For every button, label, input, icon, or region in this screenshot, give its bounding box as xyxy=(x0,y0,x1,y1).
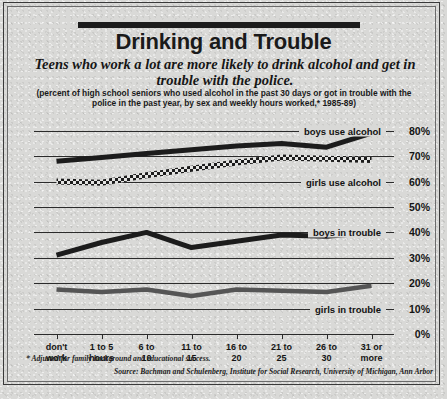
source-line: Source: Bachman and Schulenberg, Institu… xyxy=(95,367,433,376)
legend-label-boys-use-alcohol: boys use alcohol xyxy=(299,125,386,136)
y-axis-tick-label: 80% xyxy=(396,125,430,137)
y-axis-tick-label: 50% xyxy=(396,201,430,213)
legend-label-girls-in-trouble: girls in trouble xyxy=(310,303,386,314)
y-axis-tick-label: 30% xyxy=(396,252,430,264)
y-axis-tick-label: 60% xyxy=(396,176,430,188)
x-axis-tick xyxy=(237,334,238,339)
x-axis-baseline xyxy=(34,334,394,335)
y-axis-tick-label: 20% xyxy=(396,277,430,289)
deck-text: Teens who work a lot are more likely to … xyxy=(30,56,420,88)
x-axis-tick xyxy=(327,334,328,339)
x-axis-tick xyxy=(147,334,148,339)
subdeck-text: (percent of high school seniors who used… xyxy=(24,88,424,108)
x-axis-tick xyxy=(282,334,283,339)
y-axis-tick-label: 70% xyxy=(396,150,430,162)
legend-label-girls-use-alcohol: girls use alcohol xyxy=(301,176,386,187)
legend-label-boys-in-trouble: boys in trouble xyxy=(308,227,386,238)
y-axis-tick-label: 0% xyxy=(396,328,430,340)
series-line-girls-in-trouble xyxy=(57,286,372,296)
page-title: Drinking and Trouble xyxy=(0,29,447,55)
x-axis-tick xyxy=(192,334,193,339)
footnote: * Adjusted for family background and edu… xyxy=(26,354,211,363)
x-axis-tick xyxy=(372,334,373,339)
title-rule xyxy=(78,22,360,28)
x-axis-category-8: 31 ormore xyxy=(345,342,399,363)
chart-plot-area: 0%10%20%30%40%50%60%70%80% don'twork1 to… xyxy=(34,118,394,334)
x-axis-tick xyxy=(102,334,103,339)
y-axis-tick-label: 40% xyxy=(396,226,430,238)
x-axis-tick xyxy=(57,334,58,339)
y-axis-tick-label: 10% xyxy=(396,303,430,315)
